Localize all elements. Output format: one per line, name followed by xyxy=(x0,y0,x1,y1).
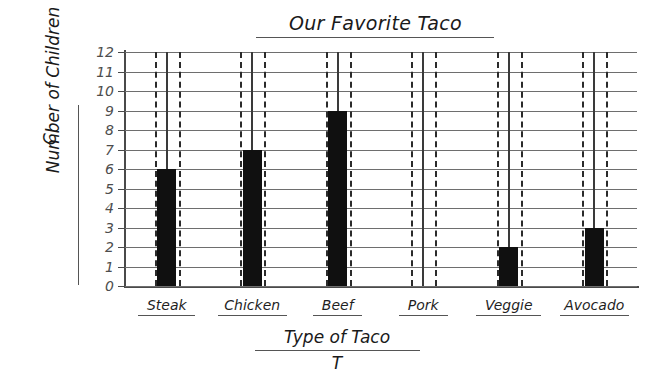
y-axis-label-text: Number of Children xyxy=(43,7,63,174)
bar xyxy=(585,228,604,287)
y-tick-label: 3 xyxy=(90,221,114,235)
y-tick-label: 0 xyxy=(90,279,114,293)
chart-title: Our Favorite Taco xyxy=(258,12,493,34)
category-center-line xyxy=(422,52,424,286)
y-tick-label: 9 xyxy=(90,104,114,118)
x-tick-label-underline xyxy=(313,315,362,316)
gridline xyxy=(124,189,637,190)
y-tick-label: 11 xyxy=(90,65,114,79)
x-axis-label: Type of Taco xyxy=(272,327,402,347)
category-dashed-line xyxy=(521,52,523,286)
gridline xyxy=(124,267,637,268)
bar xyxy=(157,169,176,286)
y-tick-label: 6 xyxy=(90,162,114,176)
bar xyxy=(243,150,262,287)
x-tick-label: Pork xyxy=(381,297,467,313)
y-axis-tick xyxy=(118,150,125,151)
y-tick-label: 7 xyxy=(90,143,114,157)
x-tick-label: Chicken xyxy=(210,297,296,313)
category-dashed-line xyxy=(411,52,413,286)
x-tick-label: Beef xyxy=(295,297,381,313)
plot-area xyxy=(124,52,637,286)
x-tick-label-underline xyxy=(560,315,630,316)
x-tick-label-underline xyxy=(476,315,541,316)
y-tick-label: 1 xyxy=(90,260,114,274)
gridline xyxy=(124,208,637,209)
category-dashed-line xyxy=(435,52,437,286)
gridline xyxy=(124,91,637,92)
y-tick-label: 5 xyxy=(90,182,114,196)
y-axis-tick xyxy=(118,111,125,112)
x-axis-variable: T xyxy=(272,353,402,373)
category-dashed-line xyxy=(606,52,608,286)
category-dashed-line xyxy=(350,52,352,286)
y-axis-tick xyxy=(118,130,125,131)
gridline xyxy=(124,130,637,131)
gridline xyxy=(124,150,637,151)
y-tick-label: 10 xyxy=(90,84,114,98)
x-axis-label-underline xyxy=(255,350,420,351)
y-tick-label: 12 xyxy=(90,45,114,59)
gridline xyxy=(124,169,637,170)
x-tick-label-underline xyxy=(399,315,448,316)
y-axis-tick xyxy=(118,228,125,229)
gridline xyxy=(124,72,637,73)
gridline xyxy=(124,286,637,287)
gridline xyxy=(124,52,637,53)
y-axis-tick xyxy=(118,169,125,170)
y-tick-label: 2 xyxy=(90,240,114,254)
y-axis-tick xyxy=(118,91,125,92)
x-tick-label: Veggie xyxy=(466,297,552,313)
y-axis-tick xyxy=(118,267,125,268)
x-tick-label-underline xyxy=(138,315,195,316)
category-dashed-line xyxy=(264,52,266,286)
x-tick-label-underline xyxy=(218,315,288,316)
y-axis-label: Number of Children xyxy=(43,0,73,185)
y-axis-tick xyxy=(118,247,125,248)
gridline xyxy=(124,247,637,248)
bar xyxy=(328,111,347,287)
y-tick-label: 4 xyxy=(90,201,114,215)
bar xyxy=(499,247,518,286)
y-axis-tick xyxy=(118,189,125,190)
gridline xyxy=(124,228,637,229)
x-tick-label: Steak xyxy=(124,297,210,313)
category-dashed-line xyxy=(179,52,181,286)
y-axis-tick xyxy=(118,286,125,287)
y-axis-tick xyxy=(118,52,125,53)
y-axis-tick xyxy=(118,72,125,73)
chart-canvas: Our Favorite Taco C Number of Children 0… xyxy=(0,0,667,388)
chart-title-underline xyxy=(256,37,494,38)
y-axis-tick xyxy=(118,208,125,209)
y-tick-label: 8 xyxy=(90,123,114,137)
x-tick-label: Avocado xyxy=(552,297,638,313)
gridline xyxy=(124,111,637,112)
y-axis-label-underline xyxy=(78,105,79,285)
